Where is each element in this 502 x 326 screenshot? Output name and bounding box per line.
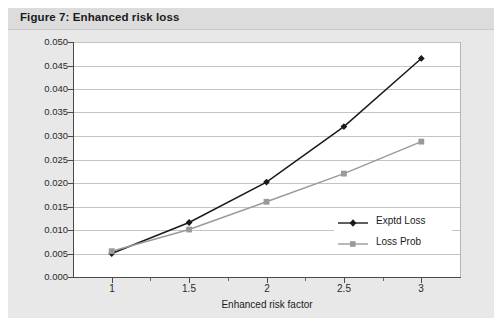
legend-swatch-loss-prob bbox=[336, 236, 370, 248]
x-tick-label: 2 bbox=[264, 283, 270, 294]
gridline bbox=[73, 112, 460, 113]
gridline bbox=[73, 183, 460, 184]
gridline bbox=[73, 66, 460, 67]
gridline bbox=[73, 136, 460, 137]
y-tick-label: 0.005 bbox=[44, 248, 68, 259]
x-axis-title: Enhanced risk factor bbox=[73, 299, 461, 310]
y-tick-label: 0.025 bbox=[44, 154, 68, 165]
gridline bbox=[73, 160, 460, 161]
x-tick-label: 1 bbox=[109, 283, 115, 294]
legend-item: Loss Prob bbox=[334, 231, 452, 252]
x-tick-minor-mark bbox=[228, 278, 229, 281]
y-tick-label: 0.000 bbox=[44, 271, 68, 282]
figure-container: Figure 7: Enhanced risk loss 0.0000.0050… bbox=[0, 0, 502, 326]
y-tick-label: 0.045 bbox=[44, 60, 68, 71]
x-tick-label: 1.5 bbox=[182, 283, 196, 294]
legend-item: Exptd Loss bbox=[334, 210, 452, 231]
chart-legend: Exptd Loss Loss Prob bbox=[334, 208, 452, 254]
x-tick-label: 3 bbox=[418, 283, 424, 294]
y-tick-label: 0.030 bbox=[44, 130, 68, 141]
page-title: Figure 7: Enhanced risk loss bbox=[20, 11, 179, 23]
gridline bbox=[73, 42, 460, 43]
x-tick-minor-mark bbox=[383, 278, 384, 281]
x-tick-minor-mark bbox=[305, 278, 306, 281]
legend-swatch-exptd-loss bbox=[336, 215, 370, 227]
y-tick-label: 0.015 bbox=[44, 201, 68, 212]
x-tick-label: 2.5 bbox=[337, 283, 351, 294]
y-tick-label: 0.035 bbox=[44, 106, 68, 117]
y-axis-line bbox=[73, 42, 74, 278]
gridline bbox=[73, 89, 460, 90]
y-tick-label: 0.040 bbox=[44, 83, 68, 94]
x-axis-line bbox=[73, 277, 461, 278]
y-tick-label: 0.020 bbox=[44, 177, 68, 188]
legend-label-loss-prob: Loss Prob bbox=[376, 236, 421, 247]
x-tick-minor-mark bbox=[150, 278, 151, 281]
gridline bbox=[73, 254, 460, 255]
legend-label-exptd-loss: Exptd Loss bbox=[376, 215, 425, 226]
y-tick-label: 0.050 bbox=[44, 36, 68, 47]
y-tick-label: 0.010 bbox=[44, 224, 68, 235]
